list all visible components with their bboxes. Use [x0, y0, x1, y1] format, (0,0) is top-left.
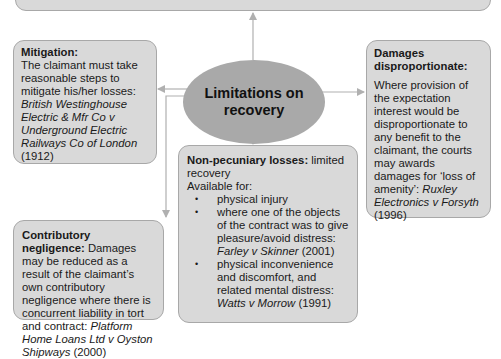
list-item-text: physical injury [217, 193, 288, 205]
contributory-year: (2000) [70, 346, 106, 358]
list-item-case: Watts v Morrow [217, 297, 295, 309]
list-item-text: where one of the objects of the contract… [217, 206, 348, 244]
mitigation-case: British Westinghouse Electric & Mfr Co v… [21, 98, 137, 149]
central-node-line1: Limitations on [204, 85, 303, 102]
list-item: where one of the objects of the contract… [187, 206, 349, 258]
list-item: physical injury [187, 193, 349, 206]
damages-year: (1996) [374, 209, 407, 221]
nonpecuniary-list: physical injury where one of the objects… [187, 193, 349, 310]
contributory-text: Damages may be reduced as a result of th… [22, 242, 151, 332]
damages-box: Damages disproportionate: Where provisio… [366, 40, 491, 218]
list-item-year: (1991) [295, 297, 331, 309]
top-box [15, 0, 491, 11]
list-item-text: physical inconvenience and discomfort, a… [217, 258, 334, 296]
nonpecuniary-available: Available for: [187, 180, 349, 193]
damages-title: Damages disproportionate: [374, 47, 483, 73]
mitigation-box: Mitigation: The claimant must take reaso… [13, 40, 157, 164]
damages-text: Where provision of the expectation inter… [374, 79, 475, 195]
nonpecuniary-title: Non-pecuniary losses: [187, 154, 308, 166]
central-node-line2: recovery [204, 102, 303, 119]
mitigation-title: Mitigation: [21, 46, 149, 59]
central-node: Limitations on recovery [183, 60, 325, 144]
list-item-year: (2001) [299, 245, 335, 257]
contributory-box: Contributory negligence: Damages may be … [13, 220, 164, 320]
mitigation-year: (1912) [21, 150, 54, 162]
mitigation-text: The claimant must take reasonable steps … [21, 59, 138, 97]
list-item: physical inconvenience and discomfort, a… [187, 258, 349, 310]
list-item-case: Farley v Skinner [217, 245, 299, 257]
nonpecuniary-box: Non-pecuniary losses: limited recovery A… [178, 145, 358, 323]
contributory-title: Contributory negligence: [22, 229, 90, 254]
